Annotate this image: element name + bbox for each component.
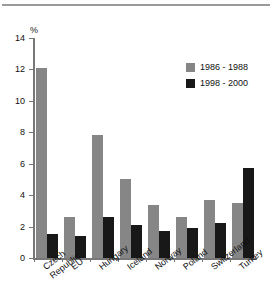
y-axis-unit-label: % [30, 26, 38, 35]
bar [204, 200, 215, 258]
legend-item: 1986 - 1988 [186, 61, 248, 74]
x-axis-tick [34, 258, 35, 262]
bar [36, 68, 47, 258]
y-axis-tick: 8 [29, 132, 33, 133]
legend-label: 1998 - 2000 [200, 79, 248, 88]
y-axis-tick-label: 0 [20, 254, 25, 263]
bar [148, 205, 159, 258]
legend-swatch [186, 79, 195, 88]
x-axis-tick [62, 258, 63, 262]
legend-label: 1986 - 1988 [200, 63, 248, 72]
chart-legend: 1986 - 19881998 - 2000 [186, 61, 248, 93]
y-axis-tick: 4 [29, 195, 33, 196]
y-axis-tick-label: 8 [20, 128, 25, 137]
bar [120, 179, 131, 258]
bar [92, 135, 103, 258]
bar [131, 225, 142, 258]
chart-figure: % 02468101214 Czech RepublicEUHungaryIce… [0, 0, 273, 296]
y-axis-tick: 12 [29, 69, 33, 70]
x-axis-tick [202, 258, 203, 262]
bar [243, 168, 254, 258]
bar [103, 217, 114, 258]
x-axis-tick [90, 258, 91, 262]
x-axis-tick [174, 258, 175, 262]
top-divider-rule [2, 4, 270, 6]
bar [232, 203, 243, 258]
x-axis-line [33, 258, 257, 260]
bar [176, 217, 187, 258]
y-axis-tick: 0 [29, 258, 33, 259]
x-axis-tick [118, 258, 119, 262]
y-axis-tick-label: 14 [15, 34, 25, 43]
y-axis-tick: 10 [29, 101, 33, 102]
y-axis-tick-label: 2 [20, 222, 25, 231]
y-axis-line [33, 38, 35, 258]
legend-swatch [186, 63, 195, 72]
legend-item: 1998 - 2000 [186, 77, 248, 90]
bar [215, 223, 226, 258]
y-axis-tick: 2 [29, 227, 33, 228]
y-axis-tick-label: 10 [15, 96, 25, 105]
bar [187, 228, 198, 258]
x-axis-tick [146, 258, 147, 262]
y-axis-tick: 6 [29, 164, 33, 165]
x-axis-tick [230, 258, 231, 262]
bar [47, 234, 58, 258]
bar [75, 236, 86, 258]
y-axis-tick-label: 4 [20, 191, 25, 200]
y-axis-tick: 14 [29, 38, 33, 39]
bar [64, 217, 75, 258]
y-axis-tick-label: 12 [15, 65, 25, 74]
y-axis-tick-label: 6 [20, 159, 25, 168]
bar [159, 231, 170, 258]
